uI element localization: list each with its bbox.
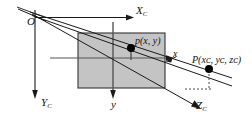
label-axis-yc: YC <box>41 97 52 108</box>
label-axis-zc: ZC <box>196 100 207 111</box>
label-image-axis-x: x <box>173 49 177 59</box>
label-world-point-coords: (xᴄ, yᴄ, zᴄ) <box>198 54 241 65</box>
label-axis-xc-main: X <box>136 4 143 16</box>
label-axis-xc: XC <box>136 5 147 16</box>
projection-diagram: O XC YC ZC y x p(x, y) P(xᴄ, yᴄ, zᴄ) <box>0 0 252 120</box>
label-world-point: P(xᴄ, yᴄ, zᴄ) <box>192 55 241 65</box>
point-P-marker <box>205 65 213 73</box>
label-axis-yc-sub: C <box>47 102 52 109</box>
point-p-marker <box>127 44 135 52</box>
label-axis-xc-sub: C <box>143 10 148 17</box>
label-image-point: p(x, y) <box>135 36 161 46</box>
label-axis-zc-sub: C <box>202 105 207 112</box>
axis-zc <box>32 14 201 109</box>
label-image-axis-y: y <box>111 99 116 110</box>
label-origin: O <box>27 16 35 27</box>
axis-xc <box>35 15 134 21</box>
